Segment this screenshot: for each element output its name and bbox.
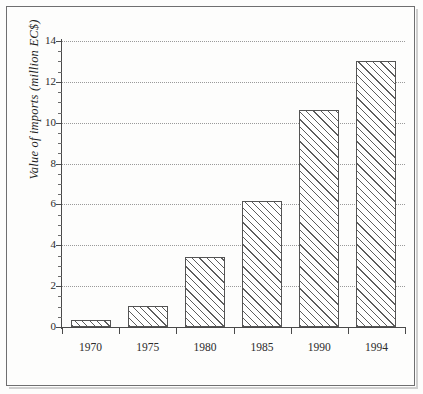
y-minor-tick-11.5 — [58, 92, 62, 93]
gridline-y-14 — [62, 41, 405, 42]
y-tick-6 — [56, 204, 62, 205]
x-tick-boundary-3 — [234, 327, 235, 334]
y-tick-label-4: 4 — [34, 239, 56, 250]
y-minor-tick-13.5 — [58, 51, 62, 52]
plot-area — [62, 41, 405, 327]
y-minor-tick-11 — [58, 102, 62, 103]
y-minor-tick-10.5 — [58, 113, 62, 114]
y-minor-tick-3 — [58, 266, 62, 267]
x-tick-boundary-2 — [176, 327, 177, 334]
y-minor-tick-12.5 — [58, 72, 62, 73]
gridline-y-10 — [62, 123, 405, 124]
y-minor-tick-5 — [58, 225, 62, 226]
y-tick-label-0: 0 — [34, 321, 56, 332]
x-tick-label-1985: 1985 — [232, 341, 292, 353]
bar-1990 — [299, 110, 339, 327]
y-tick-2 — [56, 286, 62, 287]
y-tick-label-14: 14 — [34, 35, 56, 46]
chart-page: Value of imports (million EC$) 024681012… — [0, 0, 423, 394]
x-tick-label-1990: 1990 — [289, 341, 349, 353]
y-minor-tick-1 — [58, 307, 62, 308]
y-minor-tick-7.5 — [58, 174, 62, 175]
bar-1980 — [185, 257, 225, 327]
y-tick-label-12: 12 — [34, 76, 56, 87]
y-tick-4 — [56, 245, 62, 246]
y-minor-tick-5.5 — [58, 215, 62, 216]
y-minor-tick-8.5 — [58, 153, 62, 154]
y-minor-tick-3.5 — [58, 256, 62, 257]
y-minor-tick-6.5 — [58, 194, 62, 195]
gridline-y-6 — [62, 204, 405, 205]
x-tick-label-1994: 1994 — [346, 341, 406, 353]
y-tick-label-6: 6 — [34, 198, 56, 209]
bar-1970 — [71, 320, 111, 327]
y-minor-tick-9 — [58, 143, 62, 144]
y-minor-tick-2.5 — [58, 276, 62, 277]
bar-1985 — [242, 201, 282, 327]
y-tick-8 — [56, 164, 62, 165]
x-tick-boundary-1 — [119, 327, 120, 334]
y-minor-tick-13 — [58, 61, 62, 62]
x-tick-boundary-4 — [291, 327, 292, 334]
y-minor-tick-4.5 — [58, 235, 62, 236]
y-tick-label-10: 10 — [34, 117, 56, 128]
y-minor-tick-0.5 — [58, 317, 62, 318]
x-tick-boundary-5 — [348, 327, 349, 334]
y-tick-10 — [56, 123, 62, 124]
y-tick-12 — [56, 82, 62, 83]
y-tick-14 — [56, 41, 62, 42]
gridline-y-2 — [62, 286, 405, 287]
x-tick-label-1975: 1975 — [118, 341, 178, 353]
x-tick-boundary-0 — [62, 327, 63, 334]
x-tick-label-1970: 1970 — [61, 341, 121, 353]
gridline-y-4 — [62, 245, 405, 246]
y-minor-tick-9.5 — [58, 133, 62, 134]
y-minor-tick-7 — [58, 184, 62, 185]
bar-1975 — [128, 306, 168, 327]
y-axis-tick-labels: 02468101214 — [30, 41, 56, 327]
y-tick-label-2: 2 — [34, 280, 56, 291]
x-tick-boundary-6 — [405, 327, 406, 334]
x-tick-label-1980: 1980 — [175, 341, 235, 353]
bar-1994 — [356, 61, 396, 327]
gridline-y-8 — [62, 164, 405, 165]
gridline-y-12 — [62, 82, 405, 83]
y-tick-label-8: 8 — [34, 158, 56, 169]
y-minor-tick-1.5 — [58, 296, 62, 297]
